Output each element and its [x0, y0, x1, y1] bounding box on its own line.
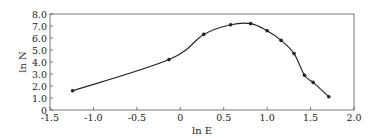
data-point — [292, 52, 296, 56]
data-markers — [71, 22, 331, 99]
y-tick-label: 3.0 — [32, 69, 47, 80]
y-tick-label: 4.0 — [32, 57, 47, 68]
x-tick-label: 0 — [177, 112, 183, 123]
x-tick-label: 2.0 — [346, 112, 361, 123]
x-axis: -1.5-1.0-0.500.51.01.52.0 — [41, 107, 362, 123]
data-point — [327, 95, 331, 99]
data-point — [303, 73, 307, 77]
data-point — [249, 22, 253, 26]
y-tick-label: 1.0 — [32, 93, 47, 104]
y-axis-title: ln N — [17, 51, 28, 73]
data-point — [229, 23, 233, 27]
data-point — [167, 58, 171, 62]
data-point — [265, 29, 269, 33]
plot-frame — [50, 14, 354, 110]
y-tick-label: 5.0 — [32, 45, 47, 56]
x-tick-label: 0.5 — [216, 112, 231, 123]
x-axis-title: ln E — [192, 125, 212, 136]
data-point — [202, 33, 206, 37]
y-tick-label: 7.0 — [32, 21, 47, 32]
data-point — [279, 39, 283, 43]
y-tick-label: 2.0 — [32, 81, 47, 92]
chart-canvas: -1.5-1.0-0.500.51.01.52.0 01.02.03.04.05… — [0, 0, 383, 138]
data-line — [73, 23, 329, 97]
data-point — [311, 81, 315, 85]
y-tick-label: 6.0 — [32, 33, 47, 44]
x-tick-label: -1.0 — [84, 112, 102, 123]
x-tick-label: -0.5 — [128, 112, 146, 123]
data-point — [71, 89, 75, 93]
x-tick-label: 1.0 — [260, 112, 275, 123]
x-tick-label: 1.5 — [303, 112, 318, 123]
y-tick-label: 0 — [41, 105, 47, 116]
y-tick-label: 8.0 — [32, 9, 47, 20]
